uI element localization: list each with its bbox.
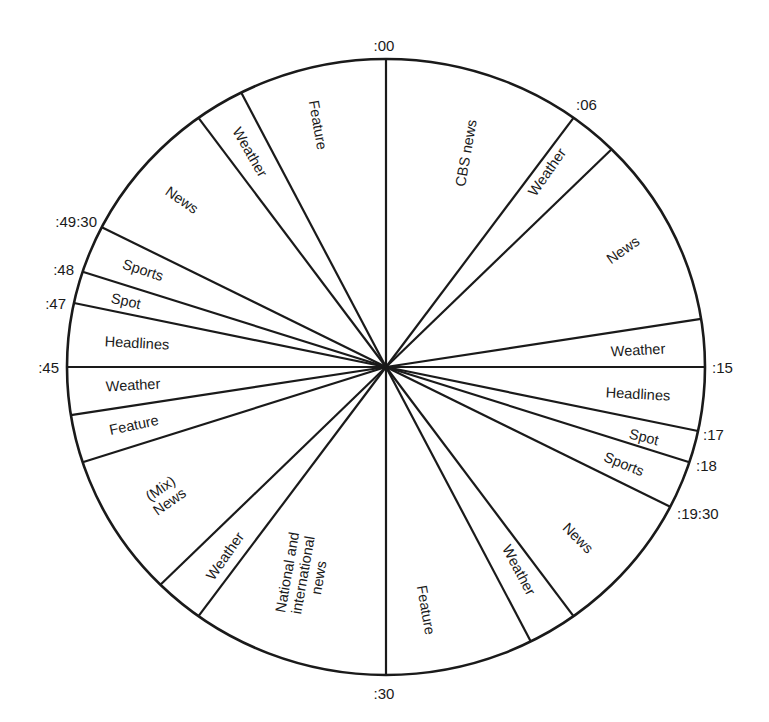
time-marker: :18 [696, 457, 717, 474]
time-marker: :30 [374, 685, 395, 702]
time-marker: :45 [38, 359, 59, 376]
segment-divider [386, 149, 612, 367]
segment-label: National andinternationalnews [272, 531, 333, 620]
time-marker: :19:30 [677, 505, 719, 522]
time-marker: :49:30 [55, 213, 97, 230]
segment-divider [160, 367, 386, 585]
segment-divider [83, 272, 386, 367]
segment-dividers [67, 59, 705, 675]
segment-label: Weather [105, 376, 160, 395]
segment-label: Sports [121, 256, 166, 284]
segment-divider [386, 367, 574, 616]
time-marker: :15 [712, 359, 733, 376]
time-marker: :00 [374, 37, 395, 54]
segment-label: Sports [602, 449, 647, 480]
segment-label: Feature [414, 584, 438, 636]
segment-label: CBS news [452, 118, 480, 187]
segment-label: Headlines [104, 333, 169, 352]
segment-label: Weather [499, 542, 539, 598]
segment-divider [386, 118, 574, 367]
time-marker: :17 [703, 426, 724, 443]
segment-divider [386, 367, 531, 641]
segment-label: Feature [306, 99, 330, 151]
segment-label: Feature [108, 412, 160, 438]
time-marker: :48 [53, 261, 74, 278]
segment-label: Headlines [605, 384, 670, 403]
time-marker: :47 [45, 295, 66, 312]
segment-label: News [163, 183, 202, 217]
segment-divider [199, 118, 387, 367]
segment-label: Spot [110, 290, 143, 312]
segment-label: Weather [610, 341, 665, 360]
time-marker: :06 [576, 96, 597, 113]
segment-label: (Mix)News [141, 471, 189, 518]
segment-label: News [604, 233, 643, 267]
segment-label: News [560, 520, 597, 557]
hour-clock-diagram: CBS newsWeatherNewsWeatherHeadlinesSpotS… [0, 0, 769, 722]
segment-label: Weather [229, 124, 270, 179]
segment-divider [386, 367, 689, 462]
